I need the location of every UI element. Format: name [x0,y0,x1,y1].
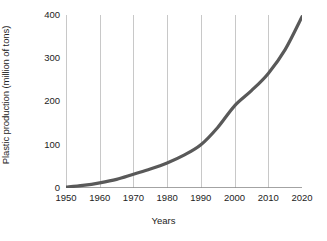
chart-figure: Plastic production (million of tons) 400… [0,0,327,241]
chart-svg [66,15,302,188]
axis-lines [66,188,302,189]
x-axis-tick-labels: 19501960197019801990200020102020 [0,192,327,206]
x-axis-title: Years [0,215,327,226]
gridlines [67,15,303,188]
y-tick-label: 300 [34,53,60,63]
data-line-plastic-production [66,17,302,187]
y-tick-label: 400 [34,10,60,20]
y-axis-title: Plastic production (million of tons) [0,0,14,195]
y-tick-label: 100 [34,140,60,150]
y-tick-label: 200 [34,96,60,106]
x-tick-label: 2020 [282,192,322,204]
plot-area [66,15,302,188]
